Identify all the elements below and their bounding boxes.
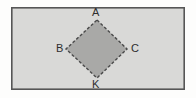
vertex-label-c: C: [131, 43, 139, 54]
vertex-label-k: K: [92, 79, 99, 90]
vertex-label-b: B: [56, 43, 63, 54]
geometry-figure: A B C K: [0, 0, 196, 98]
vertex-label-a: A: [92, 7, 99, 18]
